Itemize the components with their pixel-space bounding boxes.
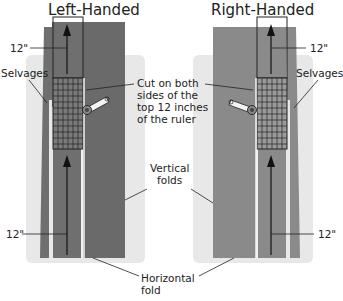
left-handed-title: Left-Handed <box>48 1 140 19</box>
right-handed-title: Right-Handed <box>211 1 314 19</box>
left-selvages-label: Selvages <box>1 67 48 79</box>
cut-instruction-callout: Cut on both sides of the top 12 inches o… <box>137 77 208 125</box>
left-bottom-12-label: 12" <box>6 228 24 240</box>
vertical-folds-label: Vertical folds <box>150 162 189 186</box>
fabric-left-right-half <box>83 22 125 258</box>
ruler-right <box>257 78 287 149</box>
right-top-12-label: 12" <box>310 42 328 54</box>
fabric-right-left-half <box>213 27 255 258</box>
left-top-12-label: 12" <box>10 42 28 54</box>
ruler-left <box>53 78 83 149</box>
right-selvages-label: Selvages <box>296 67 343 79</box>
right-handed-panel <box>193 17 318 263</box>
horizontal-fold-label: Horizontal fold <box>141 272 195 296</box>
right-bottom-12-label: 12" <box>318 228 336 240</box>
left-handed-panel <box>22 17 145 263</box>
